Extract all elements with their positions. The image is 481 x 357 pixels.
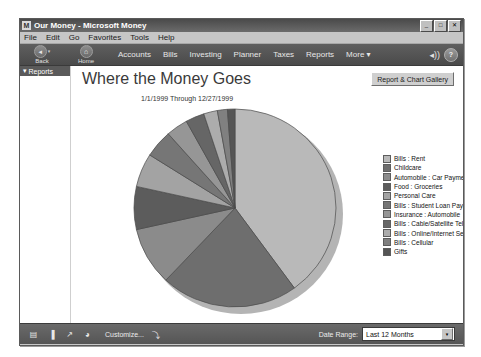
nav-bills[interactable]: Bills [157, 50, 184, 59]
window-controls: _ □ ✕ [420, 20, 461, 32]
bottom-toolbar: ▤ ▐ ↗ ◕ Customize... ⤵ Date Range: Last … [20, 323, 463, 344]
legend-label: Gifts [394, 248, 407, 255]
menu-file[interactable]: File [24, 33, 37, 42]
legend-swatch [383, 238, 391, 246]
chart-legend: Bills : RentChildcareAutomobile : Car Pa… [383, 154, 463, 256]
legend-item[interactable]: Bills : Online/Internet Service [383, 228, 463, 237]
pie-chart-icon[interactable]: ◕ [82, 329, 93, 340]
line-chart-icon[interactable]: ↗ [64, 329, 75, 340]
legend-swatch [383, 248, 391, 256]
legend-item[interactable]: Personal Care [383, 191, 463, 200]
report-content: Where the Money Goes Report & Chart Gall… [70, 66, 463, 323]
legend-swatch [383, 192, 391, 200]
legend-label: Bills : Student Loan Payment [394, 202, 463, 209]
legend-item[interactable]: Bills : Cellular [383, 238, 463, 247]
menu-help[interactable]: Help [158, 33, 174, 42]
legend-label: Insurance : Automobile [394, 211, 460, 218]
toolbar-right-icons: ◂)) ? [429, 44, 463, 65]
report-chart-gallery-button[interactable]: Report & Chart Gallery [371, 72, 454, 86]
sidebar: ▾ Reports [20, 66, 70, 323]
date-range-caption: 1/1/1999 Through 12/27/1999 [141, 95, 233, 102]
pie-chart[interactable] [133, 108, 343, 318]
desktop-background: M Our Money - Microsoft Money _ □ ✕ File… [0, 0, 481, 357]
pie-chart-area: Bills : RentChildcareAutomobile : Car Pa… [71, 106, 463, 323]
sidebar-header-label: Reports [29, 68, 54, 75]
back-button[interactable]: ◂ ▾ Back [20, 44, 64, 65]
report-grid-icon[interactable]: ▤ [28, 329, 39, 340]
chevron-down-icon: ▾ [23, 67, 27, 75]
legend-item[interactable]: Gifts [383, 247, 463, 256]
legend-swatch [383, 155, 391, 163]
nav-taxes[interactable]: Taxes [267, 50, 300, 59]
pie-svg [133, 108, 337, 308]
menu-tools[interactable]: Tools [130, 33, 149, 42]
customize-button[interactable]: Customize... [105, 331, 144, 338]
back-dropdown-icon[interactable]: ▾ [48, 48, 51, 54]
home-label: Home [78, 58, 94, 65]
back-label: Back [35, 58, 48, 65]
app-icon: M [22, 21, 31, 30]
date-range-control: Date Range: Last 12 Months ▾ [319, 327, 455, 341]
menu-edit[interactable]: Edit [46, 33, 60, 42]
legend-label: Bills : Online/Internet Service [394, 230, 463, 237]
page-title: Where the Money Goes [82, 70, 251, 88]
nav-more[interactable]: More ▾ [340, 50, 376, 59]
help-icon[interactable]: ? [444, 48, 458, 62]
menu-bar: File Edit Go Favorites Tools Help [20, 32, 463, 44]
nav-reports[interactable]: Reports [300, 50, 340, 59]
maximize-button[interactable]: □ [434, 20, 447, 32]
nav-investing[interactable]: Investing [184, 50, 228, 59]
legend-item[interactable]: Childcare [383, 163, 463, 172]
nav-planner[interactable]: Planner [228, 50, 268, 59]
legend-label: Automobile : Car Payment [394, 174, 463, 181]
legend-label: Bills : Rent [394, 155, 425, 162]
legend-item[interactable]: Bills : Rent [383, 154, 463, 163]
back-arrow-icon: ◂ [34, 45, 47, 58]
bar-chart-icon[interactable]: ▐ [46, 329, 57, 340]
home-icon: ⌂ [80, 45, 93, 58]
window-body: ▾ Reports Where the Money Goes Report & … [20, 66, 463, 323]
home-button[interactable]: ⌂ Home [64, 44, 108, 65]
legend-swatch [383, 210, 391, 218]
close-button[interactable]: ✕ [448, 20, 461, 32]
navigation-links: Accounts Bills Investing Planner Taxes R… [112, 44, 429, 65]
legend-swatch [383, 201, 391, 209]
menu-go[interactable]: Go [69, 33, 80, 42]
legend-swatch [383, 229, 391, 237]
legend-swatch [383, 220, 391, 228]
application-window: M Our Money - Microsoft Money _ □ ✕ File… [19, 18, 464, 346]
legend-swatch [383, 183, 391, 191]
legend-label: Childcare [394, 164, 421, 171]
minimize-button[interactable]: _ [420, 20, 433, 32]
date-range-value: Last 12 Months [366, 331, 414, 338]
menu-favorites[interactable]: Favorites [88, 33, 121, 42]
legend-label: Food : Groceries [394, 183, 442, 190]
date-range-label: Date Range: [319, 331, 358, 338]
legend-item[interactable]: Automobile : Car Payment [383, 173, 463, 182]
legend-item[interactable]: Insurance : Automobile [383, 210, 463, 219]
chevron-down-icon[interactable]: ▾ [441, 328, 453, 340]
nav-accounts[interactable]: Accounts [112, 50, 157, 59]
chart-type-tools: ▤ ▐ ↗ ◕ Customize... ⤵ [20, 329, 162, 340]
legend-item[interactable]: Food : Groceries [383, 182, 463, 191]
window-title: Our Money - Microsoft Money [34, 21, 146, 30]
export-icon[interactable]: ⤵ [151, 329, 162, 340]
date-range-select[interactable]: Last 12 Months ▾ [362, 327, 455, 341]
legend-swatch [383, 173, 391, 181]
legend-label: Personal Care [394, 192, 436, 199]
sound-icon[interactable]: ◂)) [429, 50, 440, 60]
legend-swatch [383, 164, 391, 172]
navigation-toolbar: ◂ ▾ Back ⌂ Home Accounts Bills Investing… [20, 44, 463, 66]
title-bar: M Our Money - Microsoft Money _ □ ✕ [20, 19, 463, 32]
legend-item[interactable]: Bills : Cable/Satellite Television [383, 219, 463, 228]
legend-item[interactable]: Bills : Student Loan Payment [383, 200, 463, 209]
legend-label: Bills : Cellular [394, 239, 433, 246]
legend-label: Bills : Cable/Satellite Television [394, 220, 463, 227]
sidebar-item-reports[interactable]: ▾ Reports [20, 66, 70, 76]
